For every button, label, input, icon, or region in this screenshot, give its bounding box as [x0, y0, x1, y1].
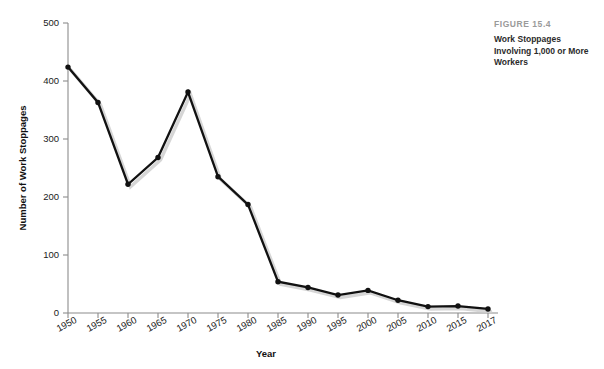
x-tick-label: 2015: [444, 314, 468, 334]
figure-container: FIGURE 15.4 Work Stoppages Involving 1,0…: [0, 0, 604, 369]
data-point-marker: [305, 285, 310, 290]
x-axis-ticks: 1950195519601965197019751980198519901995…: [54, 313, 498, 334]
data-point-marker: [485, 306, 490, 311]
x-tick-label: 2017: [474, 314, 498, 334]
x-tick-label: 1970: [174, 314, 198, 334]
x-tick-label: 1960: [114, 314, 138, 334]
data-point-marker: [125, 182, 130, 187]
y-tick-label: 300: [43, 133, 59, 144]
x-tick-label: 1985: [264, 314, 288, 334]
x-tick-label: 2000: [354, 314, 378, 334]
data-point-marker: [215, 174, 220, 179]
data-point-marker: [155, 155, 160, 160]
data-point-marker: [395, 298, 400, 303]
x-tick-label: 1980: [234, 314, 258, 334]
data-series-work-stoppages: [68, 67, 491, 311]
data-point-marker: [245, 202, 250, 207]
y-tick-label: 100: [43, 249, 59, 260]
chart-plot-area: 0100200300400500 19501955196019651970197…: [43, 17, 498, 333]
x-tick-label: 1990: [294, 314, 318, 334]
data-point-marker: [335, 292, 340, 297]
x-tick-label: 1995: [324, 314, 348, 334]
line-chart: 0100200300400500 19501955196019651970197…: [0, 0, 604, 369]
x-tick-label: 1975: [204, 314, 228, 334]
data-point-marker: [365, 288, 370, 293]
y-axis-title: Number of Work Stoppages: [17, 106, 28, 231]
x-tick-label: 1955: [84, 314, 108, 334]
data-point-marker: [455, 303, 460, 308]
x-axis-title: Year: [256, 348, 276, 359]
data-point-marker: [185, 89, 190, 94]
x-tick-label: 2005: [384, 314, 408, 334]
data-point-marker: [425, 304, 430, 309]
data-point-marker: [275, 279, 280, 284]
y-axis-ticks: 0100200300400500: [43, 17, 68, 318]
data-point-marker: [65, 64, 70, 69]
series-drop-shadow: [71, 70, 491, 312]
x-tick-label: 2010: [414, 314, 438, 334]
y-tick-label: 200: [43, 191, 59, 202]
x-tick-label: 1965: [144, 314, 168, 334]
y-tick-label: 500: [43, 17, 59, 28]
y-tick-label: 0: [54, 307, 59, 318]
data-point-marker: [95, 100, 100, 105]
y-tick-label: 400: [43, 75, 59, 86]
